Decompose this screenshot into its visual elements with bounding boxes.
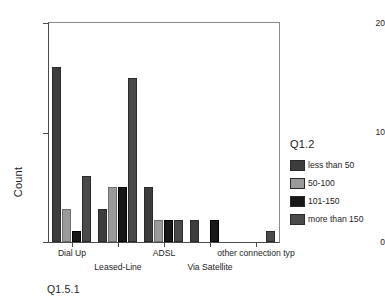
- y-tick-label-10: 10: [363, 128, 385, 136]
- bar-dial-up-50-100: [62, 209, 71, 242]
- x-label-leased-line: Leased-Line: [94, 262, 141, 272]
- x-tick-mark: [164, 243, 165, 247]
- x-tick-mark: [210, 243, 211, 247]
- x-label-other-connection: other connection typ: [217, 248, 294, 258]
- legend-swatch-icon-less-than-50: [290, 160, 305, 171]
- figure-caption: Q1.5.1: [47, 283, 80, 295]
- y-tick-label-0: 0: [363, 238, 385, 246]
- legend-swatch-icon-more-than-150: [290, 214, 305, 225]
- bar-other-connection-typ-more-than-150: [266, 231, 275, 242]
- legend-title: Q1.2: [290, 138, 385, 150]
- legend-item-101-150[interactable]: 101-150: [290, 196, 385, 207]
- chart-canvas: Count 0 10 20 Dial Up Leased-Line ADSL V…: [0, 0, 385, 304]
- legend-label-less-than-50: less than 50: [308, 161, 354, 170]
- legend-label-more-than-150: more than 150: [308, 215, 363, 224]
- bar-leased-line-50-100: [108, 187, 117, 242]
- y-tick-label-20: 20: [363, 19, 385, 27]
- legend-label-101-150: 101-150: [308, 197, 340, 206]
- bar-adsl-less-than-50: [144, 187, 153, 242]
- x-label-dial-up: Dial Up: [58, 248, 86, 258]
- bar-leased-line-less-than-50: [98, 209, 107, 242]
- x-tick-mark: [72, 243, 73, 247]
- legend-item-more-than-150[interactable]: more than 150: [290, 214, 385, 225]
- bar-dial-up-101-150: [72, 231, 81, 242]
- x-tick-mark: [256, 243, 257, 247]
- legend-item-less-than-50[interactable]: less than 50: [290, 160, 385, 171]
- legend-swatch-icon-101-150: [290, 196, 305, 207]
- bar-adsl-50-100: [154, 220, 163, 242]
- legend-label-50-100: 50-100: [308, 179, 335, 188]
- y-axis-title: Count: [12, 152, 24, 212]
- bar-leased-line-101-150: [118, 187, 127, 242]
- bar-via-satellite-101-150: [210, 220, 219, 242]
- bar-adsl-101-150: [164, 220, 173, 242]
- bar-adsl-more-than-150: [174, 220, 183, 242]
- bar-dial-up-more-than-150: [82, 176, 91, 242]
- legend-item-50-100[interactable]: 50-100: [290, 178, 385, 189]
- bar-dial-up-less-than-50: [52, 67, 61, 242]
- bar-leased-line-more-than-150: [128, 78, 137, 242]
- x-label-adsl: ADSL: [153, 248, 175, 258]
- legend-swatch-icon-50-100: [290, 178, 305, 189]
- bar-via-satellite-less-than-50: [190, 220, 199, 242]
- bar-series-layer: [49, 23, 279, 242]
- x-tick-mark: [118, 243, 119, 247]
- x-label-via-satellite: Via Satellite: [187, 262, 232, 272]
- legend: Q1.2 less than 50 50-100 101-150 more th…: [290, 138, 385, 232]
